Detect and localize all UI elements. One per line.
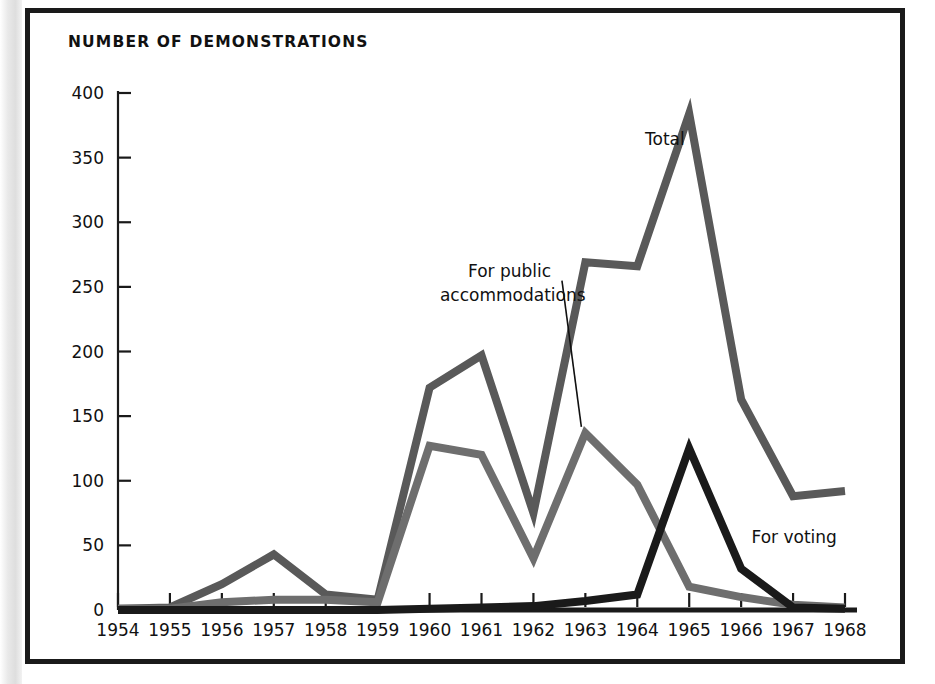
y-axis-tick-label: 350 <box>72 148 104 168</box>
x-axis-tick-label: 1954 <box>96 620 139 640</box>
y-axis-tick-label: 150 <box>72 406 104 426</box>
y-axis-tick-label: 300 <box>72 212 104 232</box>
series-annotation-label: accommodations <box>440 285 586 305</box>
series-annotation-label: For voting <box>752 527 837 547</box>
y-axis-tick-label: 0 <box>93 600 104 620</box>
x-axis-tick-label: 1956 <box>200 620 243 640</box>
x-axis-tick-label: 1962 <box>512 620 555 640</box>
y-axis-tick-label: 200 <box>72 342 104 362</box>
demonstrations-line-chart: 050100150200250300350400 195419551956195… <box>0 0 935 684</box>
y-axis-tick-label: 400 <box>72 83 104 103</box>
y-axis-tick-label: 50 <box>82 535 104 555</box>
x-axis-tick-label: 1966 <box>720 620 763 640</box>
y-axis-tick-label: 100 <box>72 471 104 491</box>
x-axis-tick-label: 1959 <box>356 620 399 640</box>
x-axis-tick-label: 1968 <box>823 620 866 640</box>
y-axis-ticks: 050100150200250300350400 <box>72 83 131 620</box>
x-axis-tick-label: 1961 <box>460 620 503 640</box>
series-line-total <box>118 114 845 609</box>
x-axis-tick-label: 1967 <box>771 620 814 640</box>
axes <box>118 91 857 610</box>
figure-page: NUMBER OF DEMONSTRATIONS 050100150200250… <box>0 0 935 684</box>
x-axis-tick-label: 1955 <box>148 620 191 640</box>
series-annotation-label: Total <box>644 129 685 149</box>
y-axis-tick-label: 250 <box>72 277 104 297</box>
x-axis-tick-label: 1957 <box>252 620 295 640</box>
x-axis-tick-label: 1964 <box>616 620 659 640</box>
x-axis-tick-label: 1960 <box>408 620 451 640</box>
x-axis-tick-label: 1963 <box>564 620 607 640</box>
series-lines <box>118 114 845 610</box>
series-annotation-label: For public <box>468 261 551 281</box>
x-axis-tick-label: 1965 <box>668 620 711 640</box>
x-axis-tick-label: 1958 <box>304 620 347 640</box>
